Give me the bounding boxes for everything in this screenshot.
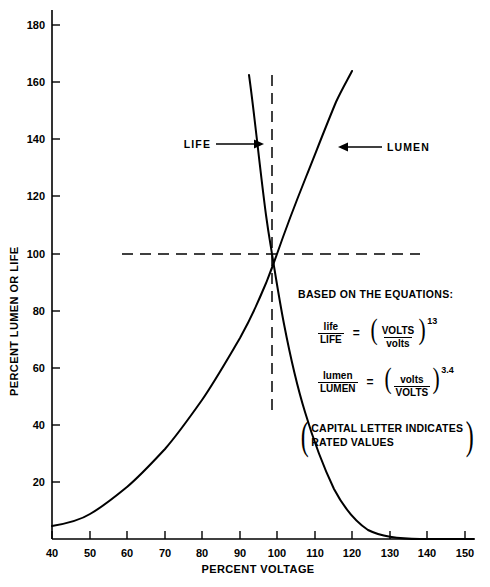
lumen-equation-right-denominator: VOLTS xyxy=(394,386,431,399)
x-tick-label-110: 110 xyxy=(306,547,324,559)
open-paren-icon: ( xyxy=(301,420,309,451)
life-equation: life LIFE = ( VOLTS volts ) 13 xyxy=(318,317,486,349)
lumen-equation-left-fraction: lumen LUMEN xyxy=(318,370,358,394)
x-tick-label-150: 150 xyxy=(456,547,474,559)
life-equation-right-fraction: VOLTS volts xyxy=(380,325,417,349)
x-tick-label-40: 40 xyxy=(46,547,58,559)
y-tick-label-40: 40 xyxy=(33,419,45,431)
life-equation-denominator: LIFE xyxy=(318,333,344,346)
label-life: LIFE xyxy=(184,138,211,150)
equations-heading: BASED ON THE EQUATIONS: xyxy=(298,288,486,300)
lumen-equation-equals-sign: = xyxy=(367,375,374,389)
life-equation-exponent: 13 xyxy=(427,316,437,326)
lumen-equation-right-fraction: volts VOLTS xyxy=(394,374,431,398)
x-tick-label-70: 70 xyxy=(159,547,171,559)
close-paren-icon: ) xyxy=(433,366,440,391)
x-tick-label-130: 130 xyxy=(381,547,399,559)
x-axis-title: PERCENT VOLTAGE xyxy=(201,563,314,575)
label-lumen: LUMEN xyxy=(387,141,430,153)
lumen-equation-denominator: LUMEN xyxy=(318,382,358,395)
y-tick-label-60: 60 xyxy=(33,362,45,374)
x-axis: 40 50 60 70 80 90 100 110 120 130 140 15… xyxy=(46,531,474,575)
x-tick-label-90: 90 xyxy=(234,547,246,559)
lumen-equation-exponent: 3.4 xyxy=(441,365,454,375)
open-paren-icon: ( xyxy=(384,366,391,391)
life-equation-right-side: ( VOLTS volts ) 13 xyxy=(369,317,438,349)
y-tick-label-180: 180 xyxy=(27,19,45,31)
lumen-equation-right-numerator: volts xyxy=(398,374,425,386)
arrow-head-life-icon xyxy=(254,140,264,149)
lumen-equation: lumen LUMEN = ( volts VOLTS ) 3.4 xyxy=(318,366,486,398)
lumen-equation-numerator: lumen xyxy=(321,370,354,382)
arrow-head-lumen-icon xyxy=(338,143,348,152)
y-tick-label-80: 80 xyxy=(33,305,45,317)
lumen-equation-right-side: ( volts VOLTS ) 3.4 xyxy=(383,366,454,398)
x-tick-label-60: 60 xyxy=(121,547,133,559)
y-tick-label-100: 100 xyxy=(27,248,45,260)
life-equation-right-numerator: VOLTS xyxy=(380,325,417,337)
close-paren-icon: ) xyxy=(466,420,474,451)
life-equation-left-fraction: life LIFE xyxy=(318,321,344,345)
life-equation-equals-sign: = xyxy=(353,326,360,340)
y-axis: 180 160 140 120 100 80 60 40 20 PERCENT … xyxy=(8,10,60,539)
equations-annotation-block: BASED ON THE EQUATIONS: life LIFE = ( VO… xyxy=(296,288,486,451)
rated-values-note: ( CAPITAL LETTER INDICATES RATED VALUES … xyxy=(298,420,486,451)
y-tick-label-160: 160 xyxy=(27,76,45,88)
y-tick-label-140: 140 xyxy=(27,133,45,145)
life-equation-numerator: life xyxy=(322,321,340,333)
rated-values-note-line2: RATED VALUES xyxy=(311,436,394,448)
open-paren-icon: ( xyxy=(370,317,377,342)
x-tick-label-50: 50 xyxy=(84,547,96,559)
figure-incandescent-lamp-voltage-characteristics: 180 160 140 120 100 80 60 40 20 PERCENT … xyxy=(0,0,490,587)
annotation-lumen: LUMEN xyxy=(338,141,430,153)
close-paren-icon: ) xyxy=(419,317,426,342)
x-tick-label-140: 140 xyxy=(418,547,436,559)
x-tick-label-80: 80 xyxy=(196,547,208,559)
rated-values-note-line1: CAPITAL LETTER INDICATES xyxy=(311,422,463,434)
y-axis-title: PERCENT LUMEN OR LIFE xyxy=(8,246,20,396)
x-tick-label-120: 120 xyxy=(343,547,361,559)
y-tick-label-20: 20 xyxy=(33,476,45,488)
life-equation-right-denominator: volts xyxy=(384,337,411,350)
y-tick-label-120: 120 xyxy=(27,190,45,202)
x-tick-label-100: 100 xyxy=(268,547,286,559)
annotation-life: LIFE xyxy=(184,138,264,150)
